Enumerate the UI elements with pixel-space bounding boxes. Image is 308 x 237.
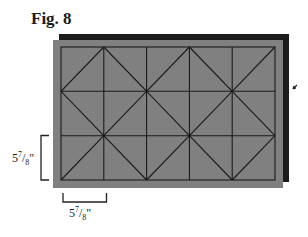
- fraction-numerator: 7: [75, 205, 79, 214]
- fraction-numerator: 7: [18, 150, 22, 159]
- unit-inches: ": [29, 151, 34, 165]
- horizontal-dimension-label: 57/8": [69, 205, 91, 222]
- vertical-dimension-label: 57/8": [12, 150, 34, 167]
- horizontal-dimension-bracket: [63, 193, 107, 202]
- quilt-grid-diagram: [0, 0, 308, 237]
- pointer-mark-icon: [293, 85, 297, 89]
- vertical-dimension-bracket: [41, 136, 49, 181]
- unit-inches: ": [86, 206, 91, 220]
